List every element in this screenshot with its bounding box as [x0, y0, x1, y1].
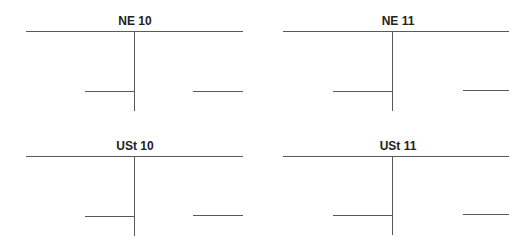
- debit-total-line: [333, 215, 392, 216]
- credit-total-line: [463, 214, 509, 215]
- t-account-top-line: [283, 156, 509, 157]
- t-account-center-line: [392, 156, 393, 235]
- account-title: USt 11: [380, 139, 417, 153]
- t-account-ust-11: USt 11: [0, 0, 532, 247]
